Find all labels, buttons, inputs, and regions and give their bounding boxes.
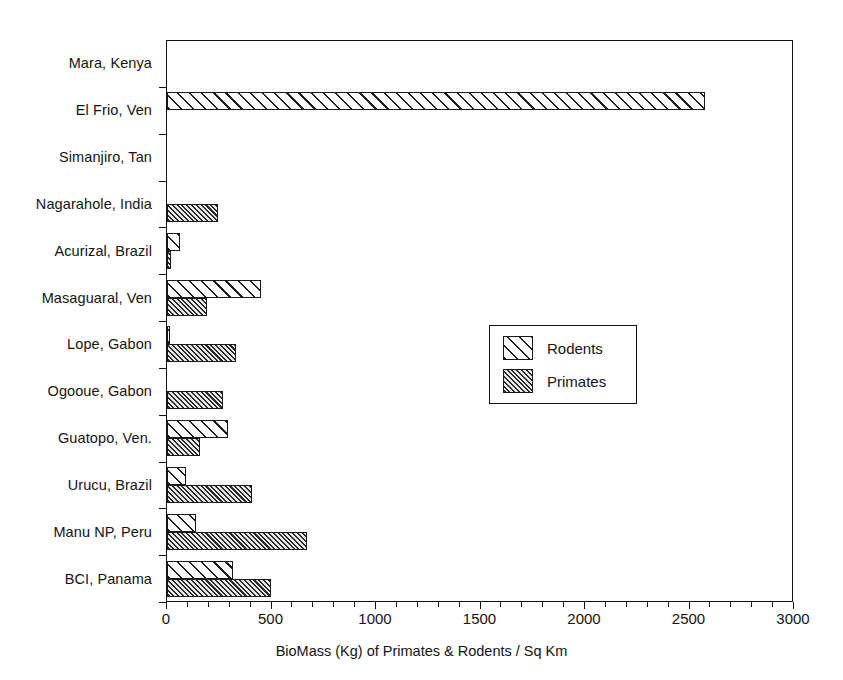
category-label: Urucu, Brazil — [68, 478, 152, 493]
legend-swatch-primates-icon — [503, 369, 533, 393]
x-axis-tick-label: 0 — [162, 610, 170, 627]
x-axis-minor-tick — [291, 602, 292, 607]
x-axis-major-tick — [375, 602, 376, 609]
x-axis-minor-tick — [730, 602, 731, 607]
legend-item-rodents: Rodents — [503, 336, 603, 360]
legend-swatch-rodents-icon — [503, 336, 533, 360]
x-axis-minor-tick — [438, 602, 439, 607]
y-axis-tick — [159, 508, 167, 509]
y-axis-tick — [159, 321, 167, 322]
x-axis-minor-tick — [459, 602, 460, 607]
x-axis-major-tick — [271, 602, 272, 609]
category-label: El Frio, Ven — [76, 103, 152, 118]
x-axis-minor-tick — [396, 602, 397, 607]
category-label: Lope, Gabon — [67, 337, 152, 352]
bar-primates — [167, 579, 271, 597]
y-axis-tick — [159, 462, 167, 463]
category-label: Nagarahole, India — [36, 197, 152, 212]
bar-primates — [167, 391, 223, 409]
y-axis-tick — [159, 274, 167, 275]
category-label: Masaguaral, Ven — [42, 291, 152, 306]
chart-legend: Rodents Primates — [489, 325, 637, 404]
x-axis-major-tick — [480, 602, 481, 609]
bar-rodents — [167, 467, 186, 485]
category-label: Acurizal, Brazil — [55, 244, 153, 259]
legend-label-primates: Primates — [547, 373, 606, 390]
x-axis-title: BioMass (Kg) of Primates & Rodents / Sq … — [0, 643, 843, 659]
bar-primates — [167, 485, 252, 503]
x-axis-minor-tick — [521, 602, 522, 607]
legend-item-primates: Primates — [503, 369, 606, 393]
bar-primates — [167, 438, 200, 456]
biomass-bar-chart: Mara, KenyaEl Frio, VenSimanjiro, TanNag… — [0, 0, 843, 680]
x-axis-tick-label: 2500 — [672, 610, 705, 627]
bar-primates — [167, 251, 171, 269]
x-axis-minor-tick — [229, 602, 230, 607]
x-axis-tick-label: 1500 — [463, 610, 496, 627]
x-axis-minor-tick — [772, 602, 773, 607]
x-axis-major-tick — [793, 602, 794, 609]
x-axis-tick-label: 3000 — [776, 610, 809, 627]
y-axis-tick — [159, 368, 167, 369]
x-axis-minor-tick — [187, 602, 188, 607]
x-axis-major-tick — [584, 602, 585, 609]
category-label: Ogooue, Gabon — [48, 384, 153, 399]
x-axis-minor-tick — [417, 602, 418, 607]
x-axis-minor-tick — [751, 602, 752, 607]
x-axis-tick-label: 500 — [258, 610, 283, 627]
x-axis-minor-tick — [668, 602, 669, 607]
bar-rodents — [167, 92, 705, 110]
x-axis-minor-tick — [500, 602, 501, 607]
y-axis-tick — [159, 87, 167, 88]
x-axis-minor-tick — [709, 602, 710, 607]
y-axis-tick — [159, 602, 167, 603]
category-label: BCI, Panama — [65, 572, 152, 587]
y-axis-tick — [159, 555, 167, 556]
x-axis-minor-tick — [626, 602, 627, 607]
legend-label-rodents: Rodents — [547, 340, 603, 357]
x-axis-minor-tick — [312, 602, 313, 607]
x-axis-tick-label: 2000 — [567, 610, 600, 627]
y-axis-tick — [159, 415, 167, 416]
x-axis-minor-tick — [647, 602, 648, 607]
bar-primates — [167, 532, 307, 550]
x-axis-minor-tick — [333, 602, 334, 607]
bar-rodents — [167, 280, 261, 298]
x-axis-tick-labels: 050010001500200025003000 — [0, 610, 843, 634]
bars-layer — [167, 40, 793, 602]
category-label: Guatopo, Ven. — [58, 431, 152, 446]
category-label: Manu NP, Peru — [53, 525, 152, 540]
bar-primates — [167, 344, 236, 362]
y-axis-tick — [159, 227, 167, 228]
y-axis-tick — [159, 181, 167, 182]
bar-primates — [167, 298, 207, 316]
x-axis-minor-tick — [250, 602, 251, 607]
bar-rodents — [167, 420, 228, 438]
x-axis-major-tick — [166, 602, 167, 609]
category-label: Simanjiro, Tan — [59, 150, 152, 165]
bar-rodents — [167, 514, 196, 532]
x-axis-minor-tick — [542, 602, 543, 607]
x-axis-minor-tick — [563, 602, 564, 607]
y-axis-tick — [159, 134, 167, 135]
x-axis-minor-tick — [605, 602, 606, 607]
x-axis-tick-label: 1000 — [358, 610, 391, 627]
x-axis-minor-tick — [354, 602, 355, 607]
x-axis-major-tick — [689, 602, 690, 609]
category-axis-labels: Mara, KenyaEl Frio, VenSimanjiro, TanNag… — [0, 40, 160, 602]
bar-rodents — [167, 326, 170, 344]
bar-primates — [167, 204, 218, 222]
bar-rodents — [167, 233, 180, 251]
category-label: Mara, Kenya — [69, 56, 152, 71]
bar-rodents — [167, 561, 233, 579]
x-axis-minor-tick — [208, 602, 209, 607]
